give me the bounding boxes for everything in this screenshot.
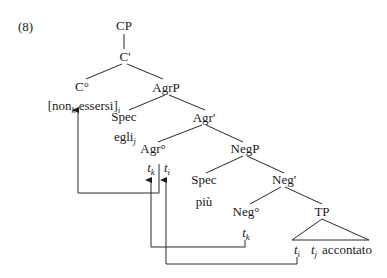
trace-tp-i: ti [294,243,300,257]
index-j: j [315,249,318,259]
node-c-content: [nonk essersi]i [48,99,121,113]
index-i: i [168,167,171,177]
node-neg-head: Neg° [233,205,260,219]
index-k: k [151,167,155,177]
index-j: j [133,136,136,146]
node-agr-head: Agr° [140,142,165,156]
trace-agr-k: tk [147,161,155,175]
node-neg-bar: Neg' [272,173,296,187]
node-piu: più [196,195,213,209]
node-agrp: AgrP [152,81,179,95]
node-c-bar: C' [119,50,130,64]
node-negp: NegP [231,142,260,156]
syntax-tree-lines [0,0,387,278]
node-egli: eglij [114,130,136,144]
node-agr-bar: Agr' [193,111,216,125]
trace-tp-j: tj [311,243,317,257]
trace-neg-k: tk [242,226,250,240]
word-accontato: accontato [322,243,372,257]
node-spec-agr: Spec [111,110,136,124]
trace-agr-i: ti [164,161,170,175]
egli-word: egli [114,129,134,144]
index-k: k [246,232,250,242]
node-cp: CP [116,19,132,33]
node-spec-neg: Spec [191,173,216,187]
node-c-head: C° [75,80,89,94]
c-content-open: [non [48,98,72,113]
index-i: i [298,249,301,259]
node-tp: TP [314,205,329,219]
